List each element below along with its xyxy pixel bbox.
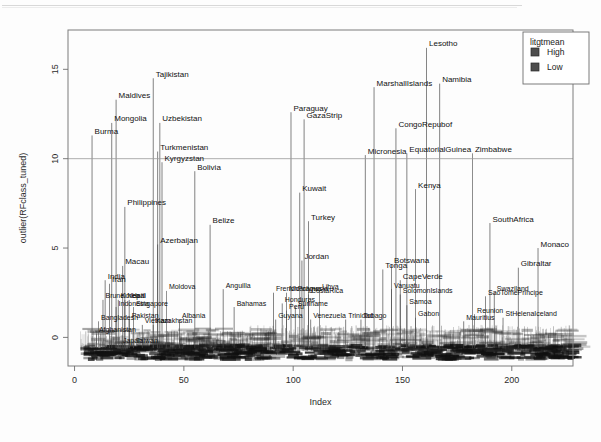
dense-text-blur [357,328,370,331]
dense-text-blur [370,350,385,353]
dense-text-blur [239,343,250,345]
dense-text-blur [393,337,415,340]
dense-text-blur [392,353,402,355]
dense-text-blur [141,350,156,353]
dense-text-blur [100,356,113,359]
plot-canvas: BurmaMongoliaMaldivesTajikistanUzbekista… [0,0,601,442]
dense-text-blur [297,357,316,360]
dense-text-blur [391,357,399,359]
dense-text-blur [473,348,482,351]
dense-text-blur [160,357,178,360]
dense-text-blur [520,348,543,351]
dense-text-blur [530,341,542,343]
dense-text-blur [256,355,271,358]
dense-text-blur [380,329,398,331]
dense-text-blur [196,345,216,348]
legend-swatch-high [531,48,539,56]
x-tick-label: 150 [395,375,410,385]
point-label: Singapore [136,300,168,308]
dense-text-blur [487,357,496,359]
dense-text-blur [220,343,229,346]
dense-text-blur [320,328,335,331]
dense-text-blur [352,345,364,348]
dense-text-blur [321,332,331,335]
x-tick-label: 0 [72,375,77,385]
dense-text-blur [87,343,94,346]
dense-text-blur [234,351,251,354]
dense-text-blur [422,341,434,344]
dense-text-blur [335,337,341,340]
point-label: Belize [213,216,235,225]
dense-text-blur [411,348,431,351]
dense-text-blur [264,334,275,336]
point-label: Mongolia [114,114,147,123]
point-label: Turkmenistan [160,143,208,152]
dense-text-blur [335,328,342,330]
dense-text-blur [276,353,287,355]
dense-text-blur [350,350,356,353]
dense-text-blur [143,329,150,331]
dense-text-blur [345,350,365,352]
dense-text-blur [305,352,315,354]
y-tick-label: 0 [50,335,60,340]
dense-text-blur [335,335,361,337]
point-label: StHelenaIceland [506,310,557,317]
point-label: Moldova [169,283,196,290]
dense-text-blur [403,334,421,337]
dense-text-blur [201,340,225,343]
y-tick-label: 15 [50,64,60,74]
point-label: Lesotho [429,39,458,48]
dense-text-blur [165,342,186,344]
dense-text-blur [318,351,338,354]
dense-text-blur [489,353,505,355]
dense-text-blur [151,331,161,333]
dense-text-blur [483,349,495,351]
point-label: Kyrgyzstan [165,154,205,163]
point-label: Uzbekistan [162,114,202,123]
dense-text-blur [423,351,428,354]
dense-text-blur [362,357,380,361]
point-label: Anguilla [226,282,251,290]
dense-text-blur [195,355,203,358]
dense-text-blur [187,334,199,337]
dense-text-blur [400,344,422,347]
point-label: Zimbabwe [475,145,512,154]
dense-text-blur [330,340,349,343]
x-axis-label: Index [309,397,332,407]
point-label: Peru [289,303,304,310]
dense-text-blur [119,357,125,359]
legend-item-high: High [547,47,565,57]
dense-text-blur [509,353,514,355]
dense-text-blur [478,332,486,334]
dense-text-blur [230,338,237,341]
point-label: Gibraltar [521,259,552,268]
dense-text-blur [83,357,92,360]
legend-item-low: Low [547,62,563,72]
dense-text-blur [563,343,581,345]
point-label: SouthAfrica [492,215,534,224]
point-label: Jordan [304,252,328,261]
point-label: Gabon [418,310,439,317]
dense-text-blur [89,353,109,357]
dense-text-blur [522,343,528,345]
point-label: Tajikistan [156,70,189,79]
dense-text-blur [507,346,520,349]
dense-text-blur [513,333,523,335]
dense-text-blur [118,354,131,357]
dense-text-blur [316,356,326,359]
dense-text-blur [558,329,578,331]
dense-text-blur [215,328,233,330]
point-label: Bahamas [237,300,267,307]
dense-text-blur [496,350,522,353]
dense-text-blur [131,353,137,356]
dense-text-blur [370,331,386,333]
point-label: EquatorialGuinea [409,145,471,154]
dense-text-blur [412,328,427,331]
dense-text-blur [402,356,421,358]
point-label: GazaStrip [307,111,343,120]
dense-text-blur [353,337,361,340]
point-label: SolomonIslands [403,287,453,294]
dense-text-blur [204,356,212,359]
dense-text-blur [290,345,305,347]
dense-text-blur [178,328,199,331]
